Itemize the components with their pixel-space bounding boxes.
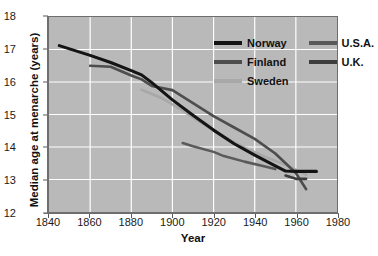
legend-swatch-icon bbox=[214, 79, 242, 83]
y-tick-label: 12 bbox=[0, 207, 16, 219]
legend-label: Sweden bbox=[247, 76, 289, 87]
legend-entry-usa: U.S.A. bbox=[309, 35, 378, 51]
legend-entry-norway: Norway bbox=[214, 35, 301, 51]
y-tick-label: 17 bbox=[0, 43, 16, 55]
plot-area: NorwayU.S.A.FinlandU.K.Sweden bbox=[48, 16, 338, 213]
legend-swatch-icon bbox=[309, 41, 337, 45]
legend-label: Finland bbox=[247, 57, 286, 68]
series-line-sweden bbox=[142, 90, 307, 175]
legend-label: Norway bbox=[247, 38, 287, 49]
legend-entry-sweden: Sweden bbox=[214, 73, 301, 89]
y-tick-label: 15 bbox=[0, 109, 16, 121]
legend-swatch-icon bbox=[214, 41, 242, 45]
legend-entry-uk: U.K. bbox=[309, 54, 378, 70]
y-tick-label: 16 bbox=[0, 76, 16, 88]
y-tick-label: 18 bbox=[0, 10, 16, 22]
legend-entry-finland: Finland bbox=[214, 54, 301, 70]
legend-swatch-icon bbox=[214, 60, 242, 64]
series-line-uk bbox=[286, 176, 307, 179]
y-tick-label: 14 bbox=[0, 141, 16, 153]
x-axis-title: Year bbox=[48, 232, 338, 244]
legend-label: U.K. bbox=[342, 57, 364, 68]
y-axis-title: Median age at menarche (years) bbox=[28, 20, 40, 220]
y-tick-label: 13 bbox=[0, 174, 16, 186]
legend-spacer bbox=[309, 73, 378, 89]
x-axis-line bbox=[44, 213, 339, 214]
legend-swatch-icon bbox=[309, 60, 337, 64]
chart-legend: NorwayU.S.A.FinlandU.K.Sweden bbox=[214, 35, 378, 89]
legend-label: U.S.A. bbox=[342, 38, 374, 49]
